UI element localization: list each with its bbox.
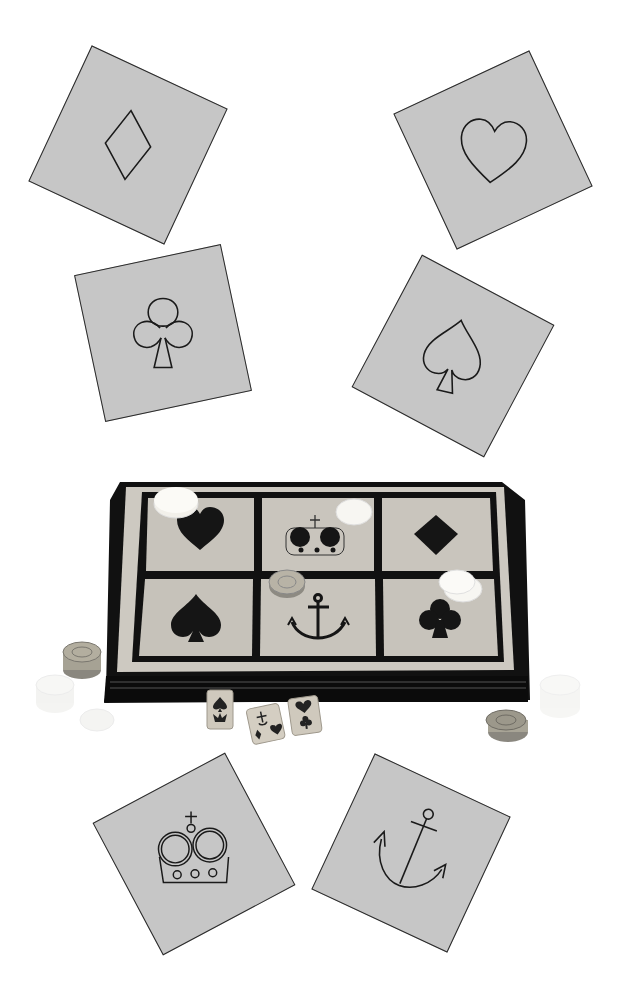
die-2	[246, 703, 286, 745]
die-3	[288, 695, 323, 736]
die-1	[207, 690, 233, 729]
game-board	[0, 0, 620, 1007]
white-chip	[336, 499, 372, 525]
white-chip-left	[80, 709, 114, 731]
